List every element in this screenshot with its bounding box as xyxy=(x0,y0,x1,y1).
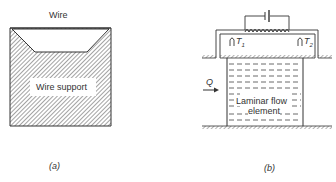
caption-b: (b) xyxy=(264,163,275,173)
caption-a: (a) xyxy=(49,161,60,171)
battery-wire-left xyxy=(245,16,265,30)
battery-wire-right xyxy=(270,16,289,30)
thermocouple-t2 xyxy=(298,38,302,46)
wire-support xyxy=(10,28,111,126)
thermocouple-t2-label: T2 xyxy=(304,36,313,48)
wire-label: Wire xyxy=(49,10,68,20)
top-wall-left-stub xyxy=(202,55,216,58)
flow-rate-label: Q xyxy=(206,77,213,87)
t1-subscript: 1 xyxy=(242,42,245,48)
thermocouple-t1 xyxy=(230,38,234,46)
flow-arrow-head xyxy=(214,88,219,93)
thermocouple-t1-label: T1 xyxy=(236,36,245,48)
wire-support-label: Wire support xyxy=(36,82,87,92)
element-label-line2: element xyxy=(248,106,280,116)
bottom-wall xyxy=(202,126,332,129)
heater-coil xyxy=(245,30,289,33)
top-wall xyxy=(220,55,315,58)
element-label-line1: Laminar flow xyxy=(236,96,287,106)
top-wall-right-stub xyxy=(318,55,332,58)
t2-subscript: 2 xyxy=(310,42,313,48)
